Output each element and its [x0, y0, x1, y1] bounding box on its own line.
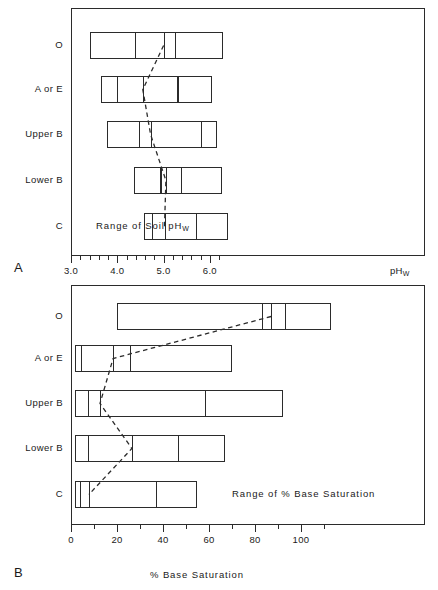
- axis-caption-ph-w: pHW: [390, 265, 409, 277]
- xtick-major-b-4: [255, 525, 256, 532]
- annotation-range-soil-ph: Range of Soil pHW: [96, 220, 189, 232]
- xtick-major-b-0: [71, 525, 72, 532]
- annotation-subscript-w: W: [182, 225, 189, 232]
- xtick-minor-a-3: [108, 256, 109, 260]
- panel-b: OA or EUpper BLower BC020406080100Range …: [0, 280, 438, 590]
- xtick-minor-a-7: [154, 256, 155, 260]
- xtick-minor-a-10: [191, 256, 192, 260]
- xtick-major-a-0: [71, 256, 72, 263]
- xtick-major-a-1: [117, 256, 118, 263]
- xtick-minor-a-11: [201, 256, 202, 260]
- panel-letter-b: B: [14, 565, 23, 580]
- xtick-minor-b-2: [186, 525, 187, 529]
- xtick-minor-a-1: [90, 256, 91, 260]
- xtick-minor-b-1: [140, 525, 141, 529]
- annotation-range-base-saturation: Range of % Base Saturation: [232, 488, 375, 499]
- xticklabel-b-2: 40: [141, 534, 185, 545]
- median-connector-line-a: [0, 0, 438, 266]
- xtick-major-b-3: [209, 525, 210, 532]
- xtick-minor-a-0: [80, 256, 81, 260]
- axis-caption-subscript-w: W: [403, 270, 410, 277]
- xtick-minor-b-5: [324, 525, 325, 529]
- xtick-minor-a-9: [182, 256, 183, 260]
- xtick-minor-a-2: [99, 256, 100, 260]
- xticklabel-b-5: 100: [279, 534, 323, 545]
- xtick-major-a-3: [210, 256, 211, 263]
- xtick-minor-a-4: [127, 256, 128, 260]
- xtick-minor-a-8: [173, 256, 174, 260]
- xtick-minor-b-4: [278, 525, 279, 529]
- xtick-minor-a-6: [145, 256, 146, 260]
- xticklabel-b-0: 0: [49, 534, 93, 545]
- xtick-major-b-5: [301, 525, 302, 532]
- panel-letter-a: A: [14, 260, 23, 275]
- xtick-minor-b-0: [94, 525, 95, 529]
- xticklabel-a-0: 3.0: [49, 265, 93, 276]
- x-axis-title-base-saturation: % Base Saturation: [150, 569, 244, 580]
- panel-a: OA or EUpper BLower BC3.04.05.06.0Range …: [0, 0, 438, 280]
- xticklabel-a-2: 5.0: [142, 265, 186, 276]
- xticklabel-a-3: 6.0: [188, 265, 232, 276]
- figure-root: OA or EUpper BLower BC3.04.05.06.0Range …: [0, 0, 438, 590]
- xtick-major-a-2: [164, 256, 165, 263]
- xticklabel-b-1: 20: [95, 534, 139, 545]
- xticklabel-b-3: 60: [187, 534, 231, 545]
- xtick-major-b-2: [163, 525, 164, 532]
- xtick-minor-b-3: [232, 525, 233, 529]
- xticklabel-a-1: 4.0: [95, 265, 139, 276]
- xtick-major-b-1: [117, 525, 118, 532]
- xtick-minor-a-12: [219, 256, 220, 260]
- xtick-minor-a-5: [136, 256, 137, 260]
- xticklabel-b-4: 80: [233, 534, 277, 545]
